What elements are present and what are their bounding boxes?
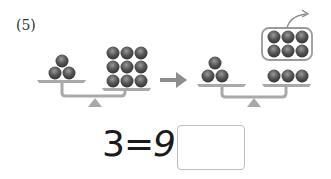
equation-left: 3 [102,123,124,164]
balance-illustration [0,0,331,120]
fulcrum-icon [247,98,261,107]
right-pan [102,88,151,91]
right-pan-balls [107,47,148,88]
removed-group [262,28,312,60]
equation-operator: = [124,123,153,164]
answer-input-box[interactable] [177,125,245,170]
left-pan-balls [202,57,229,83]
left-pan [197,84,246,87]
scale-after [197,10,312,107]
right-arrow-icon [160,72,187,88]
scale-before [37,47,151,108]
scale-beam [222,87,286,97]
left-pan-balls [49,55,76,80]
left-pan [37,80,86,83]
equation-right: 9 [153,123,175,164]
right-pan-balls [268,70,309,83]
equation: 3=9 [102,122,175,166]
right-pan [262,84,311,87]
curved-arrow-icon [287,10,308,28]
fulcrum-icon [88,98,102,107]
